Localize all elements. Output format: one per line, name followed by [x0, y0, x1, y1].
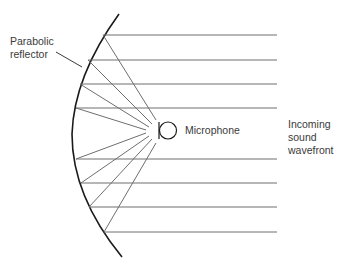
reflector-pointer-line [56, 52, 82, 67]
wavefront-label-line1: Incoming [288, 118, 334, 131]
parabolic-reflector-curve [72, 14, 122, 257]
microphone-label: Microphone [185, 124, 240, 137]
parabolic-reflector-diagram: Parabolic reflector Microphone Incoming … [0, 0, 346, 269]
reflector-label: Parabolic reflector [10, 35, 54, 61]
wavefront-label-line2: sound [288, 131, 334, 144]
reflector-label-line2: reflector [10, 48, 54, 61]
wavefront-label: Incoming sound wavefront [288, 118, 334, 157]
reflector-label-line1: Parabolic [10, 35, 54, 48]
wavefront-label-line3: wavefront [288, 144, 334, 157]
microphone-icon [159, 122, 177, 139]
